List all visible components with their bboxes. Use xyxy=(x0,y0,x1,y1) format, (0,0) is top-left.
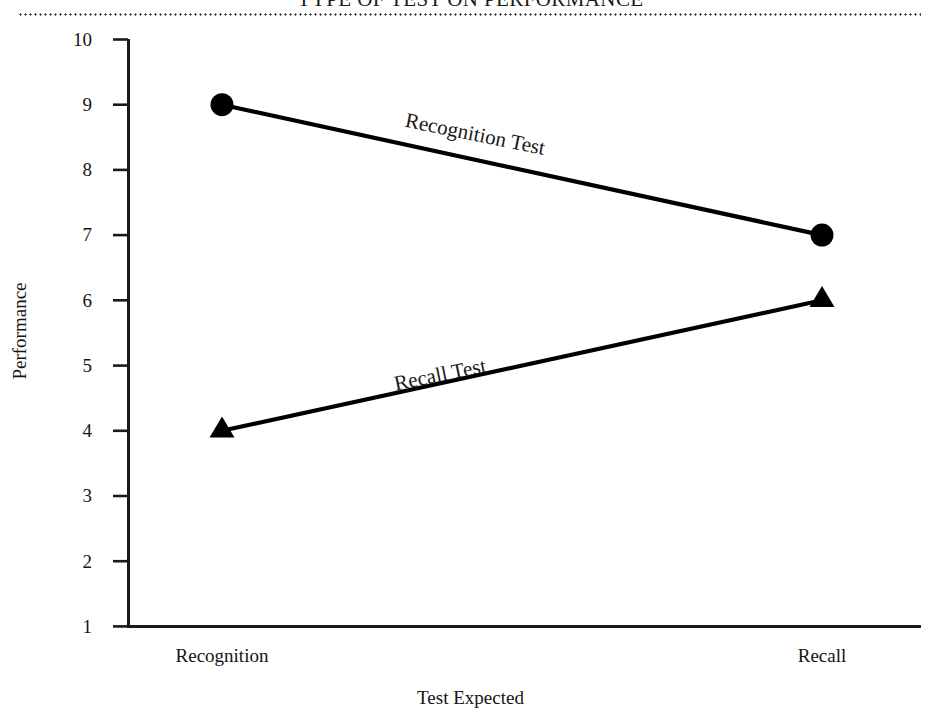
data-point-marker xyxy=(811,224,834,247)
x-tick-label: Recognition xyxy=(142,646,302,665)
data-point-marker xyxy=(810,286,835,307)
y-tick-label: 4 xyxy=(48,421,92,440)
x-axis-title: Test Expected xyxy=(0,687,941,709)
y-tick-label: 3 xyxy=(48,486,92,505)
chart-figure: TYPE OF TEST ON PERFORMANCE xyxy=(0,0,941,716)
y-tick-label: 1 xyxy=(48,617,92,636)
y-tick-label: 7 xyxy=(48,225,92,244)
series-recognition-line xyxy=(222,105,822,235)
y-tick-label: 2 xyxy=(48,552,92,571)
y-tick-label: 6 xyxy=(48,291,92,310)
y-tick-label: 8 xyxy=(48,160,92,179)
x-tick-label: Recall xyxy=(742,646,902,665)
y-tick-label: 10 xyxy=(48,30,92,49)
data-point-marker xyxy=(211,93,234,116)
series-recognition-test xyxy=(211,93,834,246)
series-recall-line xyxy=(222,300,822,431)
series-recall-test xyxy=(210,286,835,438)
y-axis-title: Performance xyxy=(9,251,31,411)
y-axis-ticks xyxy=(113,40,128,627)
y-tick-label: 9 xyxy=(48,95,92,114)
y-tick-label: 5 xyxy=(48,356,92,375)
